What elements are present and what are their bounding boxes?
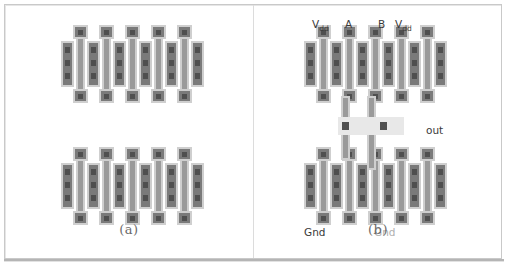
diffusion-contact <box>438 73 443 79</box>
b-row-bottom-gate-0-bot-contact <box>321 216 326 221</box>
label-input-b: B <box>378 18 385 30</box>
bottom-rule-secondary <box>4 261 504 262</box>
caption-b: (b) <box>254 222 502 237</box>
diffusion-contact <box>308 60 313 66</box>
panel-b: VddABVddoutGndGnd (b) <box>254 4 502 255</box>
a-row-top-gate-4-top-contact <box>182 30 187 35</box>
diffusion-contact <box>334 60 339 66</box>
a-row-top-gate-2-bot-contact <box>130 94 135 99</box>
diffusion-contact <box>386 73 391 79</box>
diffusion-contact <box>360 182 365 188</box>
diffusion-contact <box>334 195 339 201</box>
diffusion-contact <box>91 73 96 79</box>
b-row-bottom-gate-3-top-contact <box>399 152 404 157</box>
label-vdd-right: Vdd <box>395 18 412 33</box>
diffusion-contact <box>360 73 365 79</box>
output-contact-right <box>380 122 387 130</box>
diffusion-contact <box>117 169 122 175</box>
b-row-top-gate-0-poly <box>321 36 326 92</box>
diffusion-contact <box>65 182 70 188</box>
diffusion-contact <box>438 195 443 201</box>
figure-root: (a) VddABVddoutGndGnd (b) <box>0 0 508 269</box>
diffusion-contact <box>386 60 391 66</box>
b-row-bottom-gate-1-poly <box>347 158 352 214</box>
b-row-bottom-gate-1-bot-contact <box>347 216 352 221</box>
diffusion-contact <box>65 169 70 175</box>
diffusion-contact <box>65 60 70 66</box>
diffusion-contact <box>117 182 122 188</box>
a-row-top-gate-4-poly <box>182 36 187 92</box>
b-row-top-gate-4-poly <box>425 36 430 92</box>
diffusion-contact <box>117 60 122 66</box>
a-row-top-gate-1-poly <box>104 36 109 92</box>
label-input-a: A <box>345 18 352 30</box>
label-text: B <box>378 18 385 30</box>
b-row-bottom-gate-0-top-contact <box>321 152 326 157</box>
a-row-bottom-gate-0-bot-contact <box>78 216 83 221</box>
diffusion-contact <box>91 169 96 175</box>
a-row-bottom-gate-2-bot-contact <box>130 216 135 221</box>
diffusion-contact <box>169 47 174 53</box>
diffusion-contact <box>386 195 391 201</box>
diffusion-contact <box>195 182 200 188</box>
a-row-bottom-gate-3-bot-contact <box>156 216 161 221</box>
diffusion-contact <box>143 195 148 201</box>
a-row-bottom-gate-4-poly <box>182 158 187 214</box>
b-row-bottom-gate-4-bot-contact <box>425 216 430 221</box>
diffusion-contact <box>386 169 391 175</box>
a-row-top-gate-2-top-contact <box>130 30 135 35</box>
diffusion-contact <box>143 182 148 188</box>
a-row-top-gate-0-poly <box>78 36 83 92</box>
b-row-bottom-gate-2-bot-contact <box>373 216 378 221</box>
diffusion-contact <box>91 47 96 53</box>
a-row-bottom-gate-3-top-contact <box>156 152 161 157</box>
diffusion-contact <box>169 60 174 66</box>
panel-a: (a) <box>5 4 253 255</box>
diffusion-contact <box>412 60 417 66</box>
diffusion-contact <box>386 182 391 188</box>
label-output: out <box>426 124 443 136</box>
label-subscript: dd <box>319 24 329 33</box>
diffusion-contact <box>195 47 200 53</box>
diffusion-contact <box>308 47 313 53</box>
diffusion-contact <box>308 195 313 201</box>
diffusion-contact <box>438 182 443 188</box>
a-row-bottom-gate-2-top-contact <box>130 152 135 157</box>
diffusion-contact <box>143 47 148 53</box>
a-row-top-gate-1-bot-contact <box>104 94 109 99</box>
b-row-top-gate-3-poly <box>399 36 404 92</box>
diffusion-contact <box>117 47 122 53</box>
diffusion-contact <box>195 60 200 66</box>
diffusion-contact <box>334 169 339 175</box>
a-row-bottom-gate-1-poly <box>104 158 109 214</box>
diffusion-contact <box>386 47 391 53</box>
b-row-bottom-gate-4-top-contact <box>425 152 430 157</box>
diffusion-contact <box>308 73 313 79</box>
a-row-bottom-gate-1-top-contact <box>104 152 109 157</box>
label-text: out <box>426 124 443 136</box>
diffusion-contact <box>360 60 365 66</box>
b-row-top-gate-4-bot-contact <box>425 94 430 99</box>
a-row-top-gate-3-bot-contact <box>156 94 161 99</box>
diffusion-contact <box>143 73 148 79</box>
b-row-top-gate-3-bot-contact <box>399 94 404 99</box>
diffusion-contact <box>195 73 200 79</box>
b-row-top-gate-2-top-contact <box>373 30 378 35</box>
diffusion-contact <box>91 60 96 66</box>
diffusion-contact <box>360 169 365 175</box>
b-row-bottom-gate-3-bot-contact <box>399 216 404 221</box>
diffusion-contact <box>65 47 70 53</box>
diffusion-contact <box>143 169 148 175</box>
a-row-top-gate-0-top-contact <box>78 30 83 35</box>
diffusion-contact <box>143 60 148 66</box>
a-row-bottom-gate-3-poly <box>156 158 161 214</box>
diffusion-contact <box>91 195 96 201</box>
diffusion-contact <box>117 73 122 79</box>
label-text: A <box>345 18 352 30</box>
label-subscript: dd <box>402 24 412 33</box>
a-row-top-gate-0-bot-contact <box>78 94 83 99</box>
diffusion-contact <box>195 195 200 201</box>
a-row-top-gate-1-top-contact <box>104 30 109 35</box>
b-row-top-gate-1-top-contact <box>347 30 352 35</box>
diffusion-contact <box>334 47 339 53</box>
